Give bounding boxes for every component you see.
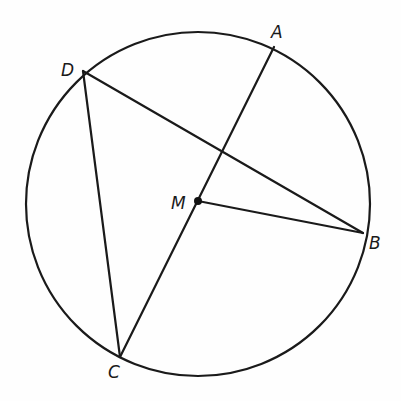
label-d: D: [61, 60, 74, 80]
segments: [83, 47, 363, 357]
segment-db: [83, 71, 363, 233]
label-b: B: [369, 233, 381, 253]
geometry-diagram: A B C D M: [0, 0, 401, 401]
center-point-m: [194, 197, 202, 205]
segment-dc: [83, 71, 120, 357]
segment-mb: [198, 201, 363, 233]
label-c: C: [108, 362, 120, 382]
label-m: M: [171, 193, 186, 213]
diagram-canvas: A B C D M: [0, 0, 401, 401]
label-a: A: [270, 22, 283, 42]
